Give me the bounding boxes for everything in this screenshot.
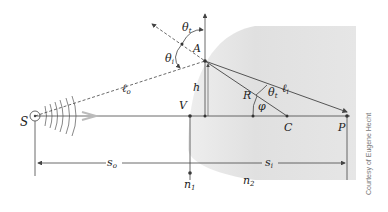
label-p: P: [337, 121, 346, 134]
label-c: C: [284, 121, 293, 134]
label-lo: ℓo: [122, 82, 131, 96]
refraction-diagram: S V A h R C P ℓo ℓi θi θt θt φ so si n1 …: [0, 0, 388, 212]
theta-i-arc: [175, 44, 182, 68]
label-r: R: [242, 89, 251, 102]
image-credit: Courtesy of Eugene Hecht: [365, 113, 373, 195]
medium-n2: [188, 26, 356, 180]
label-v: V: [179, 99, 188, 112]
label-h: h: [193, 81, 200, 94]
label-so: so: [107, 156, 117, 170]
label-a: A: [192, 42, 201, 55]
label-n1: n1: [184, 178, 196, 192]
label-s: S: [20, 115, 28, 129]
label-theta-t: θt: [182, 21, 192, 35]
label-phi: φ: [258, 100, 266, 113]
label-theta-i: θi: [165, 52, 174, 66]
